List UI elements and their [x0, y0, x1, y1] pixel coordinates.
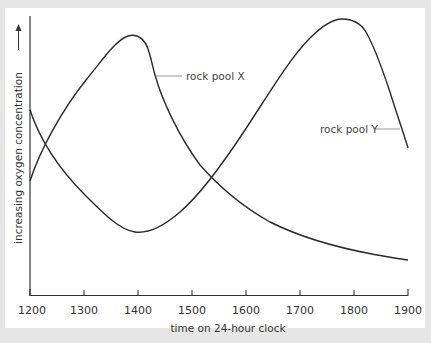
x-tick-labels: 1200 1300 1400 1500 1600 1700 1800 1900 [18, 304, 422, 317]
y-axis-title: increasing oxygen concentration [12, 72, 24, 244]
series-rock-pool-x [30, 35, 408, 260]
label-rock-pool-x: rock pool X [186, 70, 245, 82]
tick-label: 1500 [178, 304, 206, 317]
tick-label: 1600 [232, 304, 260, 317]
y-axis-title-group: increasing oxygen concentration [12, 72, 24, 244]
tick-label: 1900 [394, 304, 422, 317]
tick-label: 1800 [340, 304, 368, 317]
tick-label: 1400 [124, 304, 152, 317]
line-chart: 1200 1300 1400 1500 1600 1700 1800 1900 … [0, 0, 431, 343]
tick-label: 1700 [286, 304, 314, 317]
tick-label: 1300 [70, 304, 98, 317]
label-rock-pool-y: rock pool Y [320, 123, 378, 135]
tick-label: 1200 [18, 304, 46, 317]
up-arrow-icon [16, 24, 22, 50]
x-axis-title: time on 24-hour clock [171, 322, 287, 334]
